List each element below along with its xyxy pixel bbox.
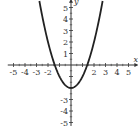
x-tick-label: -4 (21, 68, 29, 77)
x-axis-label: x (133, 55, 138, 64)
x-tick-label: 3 (103, 68, 108, 77)
y-tick-label: 3 (63, 27, 68, 36)
y-axis-arrow-icon (69, 0, 73, 3)
parabola-graph: xy-5-4-3-2234554321-3-4-5 (0, 0, 138, 139)
y-tick-label: 2 (63, 38, 68, 47)
y-tick-label: 4 (63, 15, 68, 24)
x-tick-label: 2 (91, 68, 96, 77)
y-tick-label: -3 (60, 96, 68, 105)
x-tick-label: -3 (33, 68, 41, 77)
x-tick-label: -5 (10, 68, 18, 77)
x-tick-label: 4 (114, 68, 119, 77)
y-tick-label: 1 (63, 50, 68, 59)
x-tick-label: -2 (44, 68, 52, 77)
y-tick-label: -4 (60, 107, 68, 116)
y-axis-label: y (73, 0, 79, 6)
y-tick-label: 5 (63, 4, 68, 13)
x-tick-label: 5 (126, 68, 131, 77)
y-tick-label: -5 (60, 119, 68, 128)
